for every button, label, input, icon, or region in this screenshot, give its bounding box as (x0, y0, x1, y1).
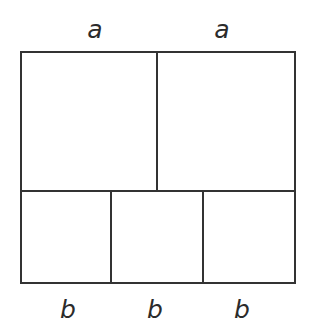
rectangle-bottom-edge (20, 282, 296, 284)
rectangle-right-edge (294, 51, 296, 284)
label-b-middle: b (135, 297, 175, 322)
rectangle-left-edge (20, 51, 22, 284)
top-row-vertical-divider (156, 51, 158, 192)
rectangle-top-edge (20, 51, 296, 53)
label-a-right: a (202, 17, 242, 42)
label-b-right: b (222, 297, 262, 322)
geometric-figure: a a b b b (0, 0, 312, 333)
bottom-row-vertical-divider-right (202, 190, 204, 284)
label-a-left: a (75, 17, 115, 42)
label-b-left: b (48, 297, 88, 322)
bottom-row-vertical-divider-left (110, 190, 112, 284)
horizontal-divider (20, 190, 296, 192)
